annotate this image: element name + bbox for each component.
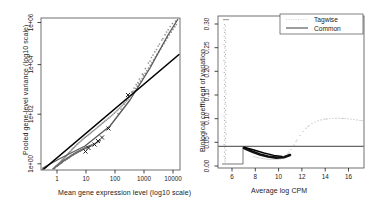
y-axis-title: Pooled gene-level variance (log10 scale) [22, 25, 29, 155]
y-tick-label: 0.00 [203, 159, 210, 172]
x-tick-label: 8 [254, 173, 258, 180]
x-axis-title: Mean gene expression level (log10 scale) [58, 189, 191, 196]
x-axis-title: Average log CPM [251, 187, 307, 194]
x-tick-label: 14 [322, 173, 330, 180]
x-tick-label: 10 [275, 173, 283, 180]
bcv-plot-svg: 6 8 10 12 14 16 0.00 0.05 0.10 0.15 0.20… [190, 0, 374, 206]
figure-container: 1 10 100 1000 10000 1e+00 1e+02 1e+04 1e… [0, 0, 374, 206]
x-tick-label: 1000 [137, 175, 152, 182]
y-axis-ticks [215, 24, 219, 166]
x-tick-labels: 1 10 100 1000 10000 [55, 175, 182, 182]
y-tick-label: 0.30 [203, 17, 210, 30]
x-axis-ticks [57, 170, 173, 174]
mean-variance-panel: 1 10 100 1000 10000 1e+00 1e+02 1e+04 1e… [0, 0, 190, 206]
y-tick-label: 1e+00 [27, 154, 34, 172]
x-tick-label: 6 [230, 173, 234, 180]
x-tick-label: 100 [110, 175, 121, 182]
x-tick-label: 10000 [164, 175, 182, 182]
legend-label-common: Common [314, 25, 341, 32]
plot-frame [41, 18, 180, 170]
legend-label-tagwise: Tagwise [314, 16, 338, 24]
x-tick-label: 12 [298, 173, 306, 180]
x-tick-label: 10 [82, 175, 90, 182]
x-tick-label: 1 [55, 175, 59, 182]
bcv-panel: 6 8 10 12 14 16 0.00 0.05 0.10 0.15 0.20… [190, 0, 374, 206]
x-axis-ticks [232, 168, 349, 172]
legend[interactable]: Tagwise Common [280, 14, 363, 34]
x-tick-label: 16 [345, 173, 353, 180]
y-axis-title: Biological coefficient of variation [199, 49, 206, 152]
plot-frame [218, 16, 364, 168]
y-axis-ticks [38, 23, 42, 164]
x-tick-labels: 6 8 10 12 14 16 [230, 173, 352, 180]
